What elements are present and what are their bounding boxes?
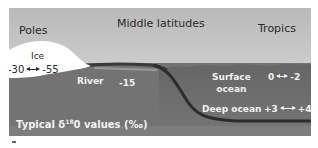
ice-value-to: -55 <box>42 64 58 75</box>
surface-value-from: 0 <box>268 72 274 82</box>
ice-value-range: -30-55 <box>9 65 59 75</box>
surface-value-to: -2 <box>290 72 300 82</box>
surface-ocean-line2: ocean <box>212 83 251 95</box>
double-arrow-icon <box>281 108 295 109</box>
label-middle-latitudes: Middle latitudes <box>117 18 205 29</box>
river-value: -15 <box>119 79 135 88</box>
deep-ocean-value-range: +3+4 <box>264 105 311 114</box>
caption-superscript: 18 <box>65 118 73 125</box>
label-deep-ocean: Deep ocean <box>202 105 261 114</box>
label-surface-ocean: Surface ocean <box>212 71 251 95</box>
oxygen-isotope-diagram: Poles Middle latitudes Tropics Ice -30-5… <box>9 8 311 136</box>
ice-value-from: -30 <box>9 64 24 75</box>
caption-prefix: Typical δ <box>16 119 65 130</box>
surface-ocean-value-range: 0-2 <box>268 73 300 82</box>
page-mark <box>12 141 16 143</box>
deep-value-from: +3 <box>264 104 278 114</box>
double-arrow-icon <box>277 76 287 77</box>
caption: Typical δ180 values (‰) <box>16 120 148 130</box>
surface-ocean-line1: Surface <box>212 71 251 83</box>
label-ice: Ice <box>31 52 44 61</box>
deep-value-to: +4 <box>298 104 311 114</box>
label-tropics: Tropics <box>258 23 296 34</box>
caption-suffix: 0 values (‰) <box>74 119 148 130</box>
label-river: River <box>77 77 103 86</box>
double-arrow-icon <box>27 69 39 70</box>
label-poles: Poles <box>19 25 48 36</box>
